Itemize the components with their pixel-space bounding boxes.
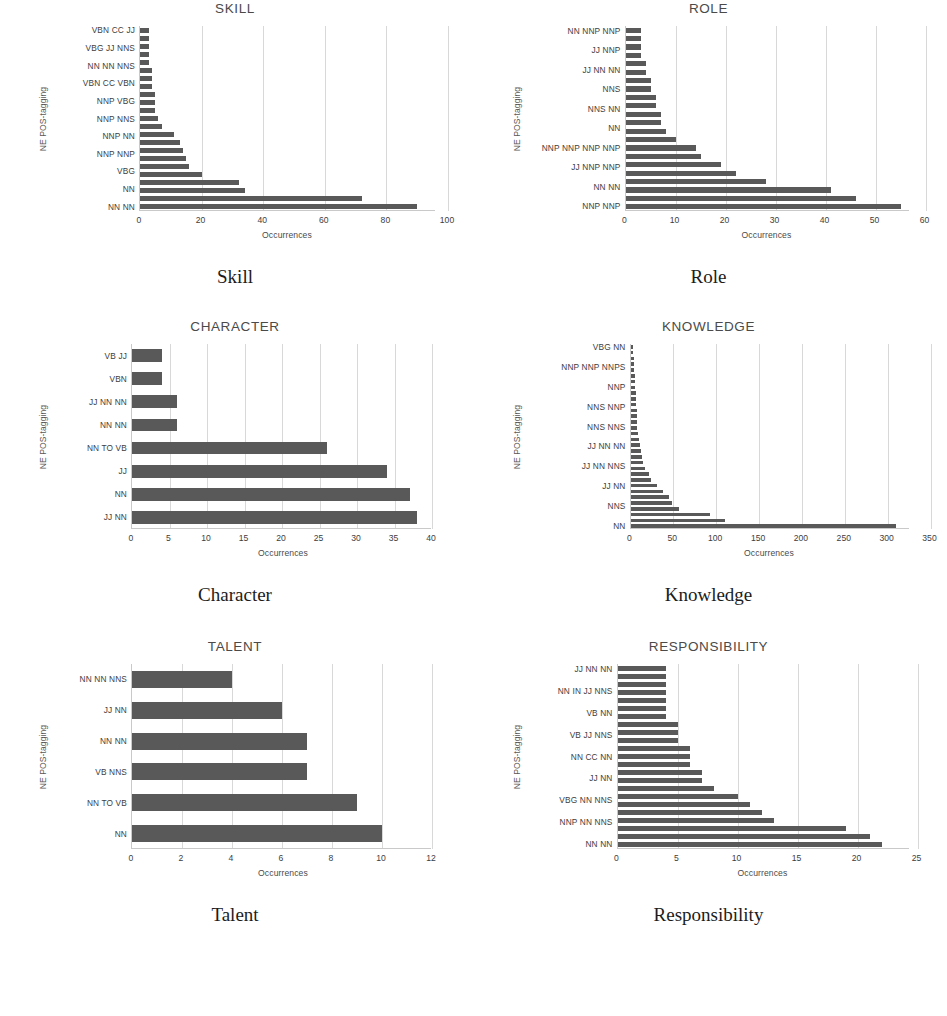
y-tick-label: JJ NN [602,482,625,491]
bar [618,698,666,703]
bar [140,196,362,201]
bar [626,103,656,108]
figure-role: ROLENE POS-taggingNN NNP NNPJJ NNPJJ NN … [470,0,947,318]
chart-title: TALENT [35,638,435,656]
plot-area: NE POS-taggingVBN CC JJVBG JJ NNSNN NN N… [35,26,435,211]
figure-page: SKILLNE POS-taggingVBN CC JJVBG JJ NNSNN… [0,0,947,1016]
gridline [432,664,433,849]
gridline [888,344,889,529]
bar [140,68,152,73]
x-tick-labels: 0510152025 [617,851,917,867]
x-axis-line [631,528,909,529]
y-tick-label: NN TO VB [87,444,127,453]
plot-canvas [625,26,909,211]
bar [626,86,651,91]
gridline [845,344,846,529]
y-tick-label: NNP NN [102,132,135,141]
y-tick-label: NNS NNS [587,422,625,431]
gridline [182,664,183,849]
gridline [776,26,777,211]
y-tick-labels: VBN CC JJVBG JJ NNSNN NN NNSVBN CC VBNNN… [51,26,139,211]
x-tick-label: 0 [614,853,619,863]
x-axis-title: Occurrences [509,230,909,240]
x-axis-spacer [35,529,131,547]
bar [132,733,307,750]
figure-grid: SKILLNE POS-taggingVBN CC JJVBG JJ NNSNN… [0,0,947,1016]
x-tick-label: 2 [179,853,184,863]
y-tick-label: JJ NNP [591,46,620,55]
y-tick-labels: JJ NN NNNN IN JJ NNSVB NNVB JJ NNSNN CC … [525,664,617,849]
plot-canvas [131,664,431,849]
y-tick-label: NNS [608,501,626,510]
gridline [320,344,321,529]
x-tick-label: 40 [257,215,267,225]
bar [631,478,652,482]
bar [631,420,638,424]
y-axis-title-label: NE POS-tagging [38,86,48,150]
x-axis-title: Occurrences [509,868,909,878]
gridline [395,344,396,529]
bar [626,171,736,176]
plot-area: NE POS-taggingJJ NN NNNN IN JJ NNSVB NNV… [509,664,909,849]
bar [132,395,177,408]
y-tick-label: NN NN [108,202,135,211]
chart-skill: SKILLNE POS-taggingVBN CC JJVBG JJ NNSNN… [35,0,435,240]
y-tick-label: VBN CC JJ [92,26,135,35]
bar [626,145,696,150]
x-tick-label: 8 [329,853,334,863]
x-axis-title: Occurrences [35,868,435,878]
bar [140,44,149,49]
bar [140,84,152,89]
bar [132,794,357,811]
plot-area: NE POS-taggingNN NN NNSJJ NNNN NNVB NNSN… [35,664,435,849]
y-tick-label: NN IN JJ NNS [558,687,613,696]
y-tick-label: JJ NN NN [89,397,127,406]
bar [631,513,711,517]
y-axis-title: NE POS-tagging [35,664,51,849]
x-axis-row: 0102030405060 [509,211,909,229]
y-tick-label: VBG [117,167,135,176]
bar [626,112,661,117]
x-axis-row: 024681012 [35,849,435,867]
bar [140,164,189,169]
bar [626,137,676,142]
chart-title: KNOWLEDGE [509,318,909,336]
bar [618,770,702,775]
x-tick-labels: 024681012 [131,851,431,867]
bar [618,818,774,823]
bar [132,488,410,501]
x-tick-label: 15 [792,853,802,863]
chart-title: SKILL [35,0,435,18]
y-tick-label: NNP NNP NNPS [561,363,625,372]
x-tick-label: 350 [922,533,936,543]
x-tick-label: 5 [166,533,171,543]
bar [631,397,636,401]
figure-responsibility: RESPONSIBILITYNE POS-taggingJJ NN NNNN I… [470,638,947,1016]
y-tick-label: NN NN [593,182,620,191]
bar [631,386,635,390]
gridline [282,344,283,529]
bar [618,826,846,831]
y-axis-title-label: NE POS-tagging [38,404,48,468]
bar [140,60,149,65]
y-tick-label: JJ NN NNS [582,462,626,471]
y-tick-label: NN [115,490,127,499]
bar [626,120,661,125]
bar [618,762,690,767]
plot-area: NE POS-taggingVBG NNNNP NNP NNPSNNPNNS N… [509,344,909,529]
x-tick-label: 100 [440,215,454,225]
bar [631,519,725,523]
y-tick-label: NNP [608,382,626,391]
x-axis-spacer [509,529,630,547]
y-tick-label: JJ NN NN [582,65,620,74]
y-axis-title: NE POS-tagging [35,26,51,211]
bar [132,511,417,524]
bar [140,204,417,209]
bar [618,810,762,815]
x-tick-label: 5 [674,853,679,863]
y-tick-label: NNP NN NNS [560,817,613,826]
y-tick-label: VBG NN NNS [559,796,612,805]
x-axis-row: 050100150200250300350 [509,529,909,547]
y-axis-title-label: NE POS-tagging [512,404,522,468]
bar [626,28,641,33]
